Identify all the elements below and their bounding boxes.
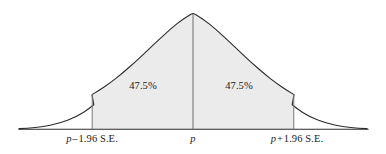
upper-bound-value: 1.96 S.E. [284,133,323,144]
bell-curve-chart [0,0,386,154]
mean-axis-label: p [190,133,195,144]
upper-bound-axis-label: p+1.96 S.E. [271,133,323,144]
lower-bound-value: 1.96 S.E. [78,133,117,144]
normal-distribution-figure: 47.5% 47.5% p–1.96 S.E. p p+1.96 S.E. [0,0,386,154]
upper-bound-operator: + [276,133,284,144]
mean-variable: p [190,133,195,144]
lower-bound-axis-label: p–1.96 S.E. [66,133,118,144]
left-area-percentage-label: 47.5% [129,80,157,91]
right-area-percentage-label: 47.5% [225,80,253,91]
